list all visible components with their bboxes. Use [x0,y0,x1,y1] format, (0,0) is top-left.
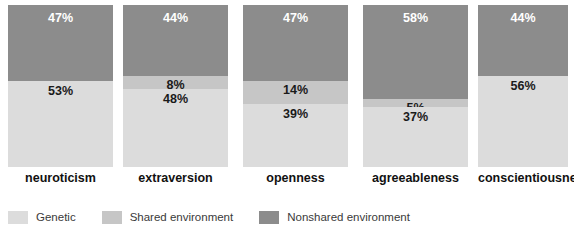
bar-conscientiousness: 44%56% [478,5,568,167]
legend-swatch-icon [102,211,122,224]
legend-label: Shared environment [130,212,234,224]
segment-nonshared-conscientiousness: 44% [478,5,568,76]
category-label-neuroticism: neuroticism [8,172,113,185]
legend-label: Nonshared environment [287,212,410,224]
segment-nonshared-neuroticism: 47% [8,5,113,81]
segment-label-genetic: 56% [478,80,568,93]
segment-shared-extraversion: 8% [123,76,228,89]
segment-label-shared: 14% [243,84,348,97]
bar-agreeableness: 58%5%37% [363,5,468,167]
segment-nonshared-extraversion: 44% [123,5,228,76]
bar-openness: 47%14%39% [243,5,348,167]
plot-area: 47%53%44%8%48%47%14%39%58%5%37%44%56% [0,0,574,167]
legend-label: Genetic [36,212,76,224]
category-label-conscientiousness: conscientiousness [478,172,568,185]
segment-label-genetic: 48% [123,93,228,106]
segment-label-genetic: 39% [243,108,348,121]
segment-nonshared-agreeableness: 58% [363,5,468,99]
segment-shared-agreeableness: 5% [363,99,468,107]
bar-neuroticism: 47%53% [8,5,113,167]
segment-nonshared-openness: 47% [243,5,348,81]
category-label-extraversion: extraversion [123,172,228,185]
segment-genetic-extraversion: 48% [123,89,228,167]
segment-label-genetic: 53% [8,85,113,98]
legend-item-nonshared-environment[interactable]: Nonshared environment [259,211,410,224]
legend-item-shared-environment[interactable]: Shared environment [102,211,234,224]
segment-label-nonshared: 47% [243,12,348,25]
segment-label-nonshared: 44% [123,12,228,25]
segment-label-nonshared: 44% [478,12,568,25]
segment-label-nonshared: 47% [8,12,113,25]
legend-swatch-icon [259,211,279,224]
segment-shared-openness: 14% [243,81,348,104]
segment-genetic-openness: 39% [243,104,348,167]
category-label-openness: openness [243,172,348,185]
segment-label-genetic: 37% [363,111,468,124]
segment-label-nonshared: 58% [363,12,468,25]
stacked-bar-chart: 47%53%44%8%48%47%14%39%58%5%37%44%56% Ge… [0,0,574,233]
segment-genetic-neuroticism: 53% [8,81,113,167]
segment-genetic-conscientiousness: 56% [478,76,568,167]
segment-genetic-agreeableness: 37% [363,107,468,167]
legend-swatch-icon [8,211,28,224]
chart-legend: GeneticShared environmentNonshared envir… [8,211,436,224]
category-label-agreeableness: agreeableness [363,172,468,185]
legend-item-genetic[interactable]: Genetic [8,211,76,224]
bar-extraversion: 44%8%48% [123,5,228,167]
